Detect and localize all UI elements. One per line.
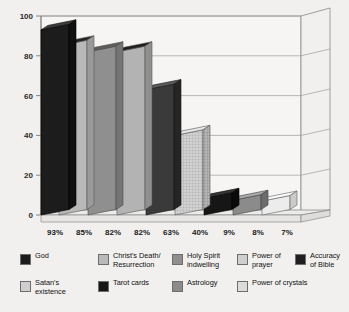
legend-swatch-icon [237,281,248,292]
bar-group [41,20,76,215]
chart-right-wall [301,8,330,215]
legend-label: Power of prayer [252,252,281,269]
legend-label: Tarot cards [113,279,149,288]
legend-label: Astrology [187,279,217,288]
y-tick-label: 80 [24,52,33,61]
legend-row: Satan's existence Tarot cards Astrology … [20,279,346,305]
legend-item-power-of-crystals[interactable]: Power of crystals [237,279,307,305]
legend-swatch-icon [295,254,306,265]
y-tick-label: 60 [24,92,33,101]
data-label: 8% [252,228,264,237]
legend-item-astrology[interactable]: Astrology [172,279,217,305]
legend-item-power-of-prayer[interactable]: Power of prayer [237,252,281,278]
legend-label: Holy Spirit indwelling [187,252,220,269]
legend-item-satans-existence[interactable]: Satan's existence [20,279,66,305]
legend-label: Satan's existence [35,279,66,296]
legend-item-tarot-cards[interactable]: Tarot cards [98,279,149,305]
legend-swatch-icon [98,254,109,265]
data-label: 93% [47,228,63,237]
y-axis-tick-labels: 100 80 60 40 20 0 [20,12,34,220]
data-label: 85% [76,228,92,237]
data-label: 9% [223,228,235,237]
legend-swatch-icon [20,281,31,292]
y-axis [36,16,41,215]
legend-item-holy-spirit-indwelling[interactable]: Holy Spirit indwelling [172,252,220,278]
legend-item-christs-death-resurrection[interactable]: Christ's Death/ Resurrection [98,252,160,278]
data-label: 7% [281,228,293,237]
bar-chart: 100 80 60 40 20 0 [0,0,349,312]
data-label: 40% [192,228,208,237]
chart-legend: God Christ's Death/ Resurrection Holy Sp… [20,252,346,310]
legend-label: Accuracy of Bible [310,252,340,269]
legend-swatch-icon [237,254,248,265]
x-axis-data-labels: 93% 85% 82% 82% 63% 40% 9% 8% 7% [47,228,293,237]
y-tick-label: 0 [29,211,34,220]
y-tick-label: 40 [24,131,33,140]
legend-swatch-icon [172,281,183,292]
data-label: 63% [163,228,179,237]
legend-label: Power of crystals [252,279,307,288]
y-tick-label: 100 [20,12,34,21]
legend-row: God Christ's Death/ Resurrection Holy Sp… [20,252,346,278]
chart-plot-area: 100 80 60 40 20 0 [0,0,349,252]
data-label: 82% [105,228,121,237]
legend-item-god[interactable]: God [20,252,49,278]
legend-item-accuracy-of-bible[interactable]: Accuracy of Bible [295,252,340,278]
legend-label: God [35,252,49,261]
legend-swatch-icon [98,281,109,292]
legend-swatch-icon [172,254,183,265]
y-tick-label: 20 [24,171,33,180]
legend-label: Christ's Death/ Resurrection [113,252,160,269]
legend-swatch-icon [20,254,31,265]
data-label: 82% [134,228,150,237]
